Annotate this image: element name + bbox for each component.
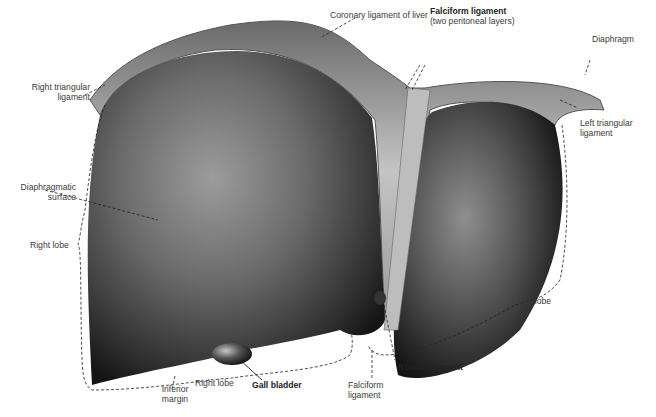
label-right-lobe-side: Right lobe bbox=[30, 240, 69, 250]
label-gall-bladder: Gall bladder bbox=[252, 380, 302, 390]
label-diaphragm: Diaphragm bbox=[592, 34, 634, 44]
label-falciform-sub: (two peritoneal layers) bbox=[430, 16, 515, 26]
label-left-triangular-ligament: Left triangular ligament bbox=[580, 118, 633, 138]
liver-illustration bbox=[0, 0, 656, 417]
label-right-triangular-ligament: Right triangular ligament bbox=[10, 82, 90, 102]
label-left-lobe: Left lobe bbox=[518, 296, 551, 306]
label-falciform-ligament-bottom: Falciform ligament bbox=[348, 380, 383, 400]
round-ligament-shape bbox=[374, 291, 386, 305]
label-round-ligament: Round ligament bbox=[398, 362, 463, 372]
gall-bladder-shape bbox=[212, 343, 252, 365]
right-lobe-shape bbox=[88, 51, 385, 385]
label-right-lobe-bottom: Right lobe bbox=[195, 378, 234, 388]
label-diaphragmatic-surface: Diaphragmatic surface bbox=[0, 182, 76, 202]
label-inferior-margin: Inferior margin bbox=[150, 384, 200, 404]
label-falciform-ligament: Falciform ligament bbox=[430, 6, 506, 16]
label-coronary-ligament: Coronary ligament of liver bbox=[330, 10, 428, 20]
